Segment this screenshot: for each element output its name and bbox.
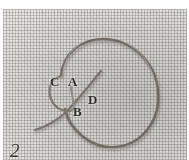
- figure-number: 2: [10, 141, 20, 160]
- point-label-c: C: [50, 75, 59, 88]
- figure-image: C A B D 2: [0, 0, 189, 160]
- thread-layer: [3, 9, 187, 160]
- thread-main-loop: [61, 39, 158, 147]
- thread-shadow: [36, 41, 159, 149]
- fabric-swatch: C A B D 2: [3, 9, 187, 160]
- point-label-d: D: [88, 93, 97, 106]
- point-label-b: B: [73, 105, 82, 118]
- point-label-a: A: [68, 75, 77, 88]
